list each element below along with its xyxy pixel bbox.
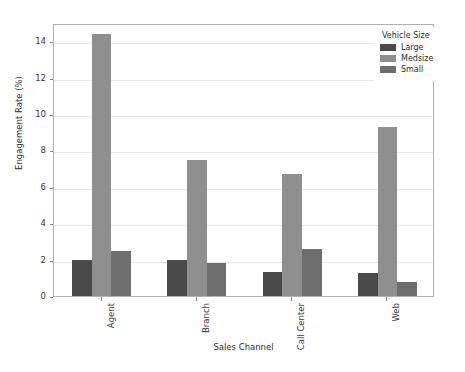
legend-swatch xyxy=(380,44,396,51)
bar xyxy=(92,34,112,296)
bar xyxy=(111,251,131,297)
x-axis-label: Sales Channel xyxy=(53,342,434,352)
y-axis: 02468101214 xyxy=(0,24,53,297)
x-tick-label-text: Branch xyxy=(201,303,211,333)
legend: Vehicle Size LargeMedsizeSmall xyxy=(374,27,439,81)
bar xyxy=(358,273,378,296)
legend-swatch xyxy=(380,55,396,62)
chart-figure: 02468101214 Engagement Rate (%) AgentBra… xyxy=(0,0,465,372)
bar xyxy=(397,282,417,296)
legend-label: Medsize xyxy=(401,54,433,63)
y-axis-label: Engagement Rate (%) xyxy=(14,43,24,203)
bar xyxy=(207,263,227,296)
bar xyxy=(72,260,92,296)
x-tick-label-text: Agent xyxy=(106,303,116,328)
x-tick-label: Branch xyxy=(196,273,206,303)
y-tick-label: 6 xyxy=(41,182,46,193)
bar xyxy=(378,127,398,296)
x-tick-label: Agent xyxy=(101,278,111,303)
y-tick-label: 10 xyxy=(35,109,46,120)
legend-entries: LargeMedsizeSmall xyxy=(380,43,433,74)
y-tick-label: 14 xyxy=(35,36,46,47)
legend-title: Vehicle Size xyxy=(382,31,433,40)
legend-swatch xyxy=(380,66,396,73)
y-tick-label: 4 xyxy=(41,218,46,229)
y-tick-label: 2 xyxy=(41,255,46,266)
legend-label: Small xyxy=(401,65,423,74)
x-tick-label: Web xyxy=(386,284,396,303)
x-tick-label-text: Web xyxy=(391,303,401,322)
bar xyxy=(167,260,187,296)
y-tick-label: 8 xyxy=(41,145,46,156)
bar xyxy=(302,249,322,296)
bar xyxy=(263,272,283,296)
legend-item-small: Small xyxy=(380,65,433,74)
y-tick-label: 12 xyxy=(35,73,46,84)
legend-label: Large xyxy=(401,43,424,52)
x-tick-label: Call Center xyxy=(291,256,301,303)
legend-item-large: Large xyxy=(380,43,433,52)
legend-item-medsize: Medsize xyxy=(380,54,433,63)
y-tick-label: 0 xyxy=(41,291,46,302)
